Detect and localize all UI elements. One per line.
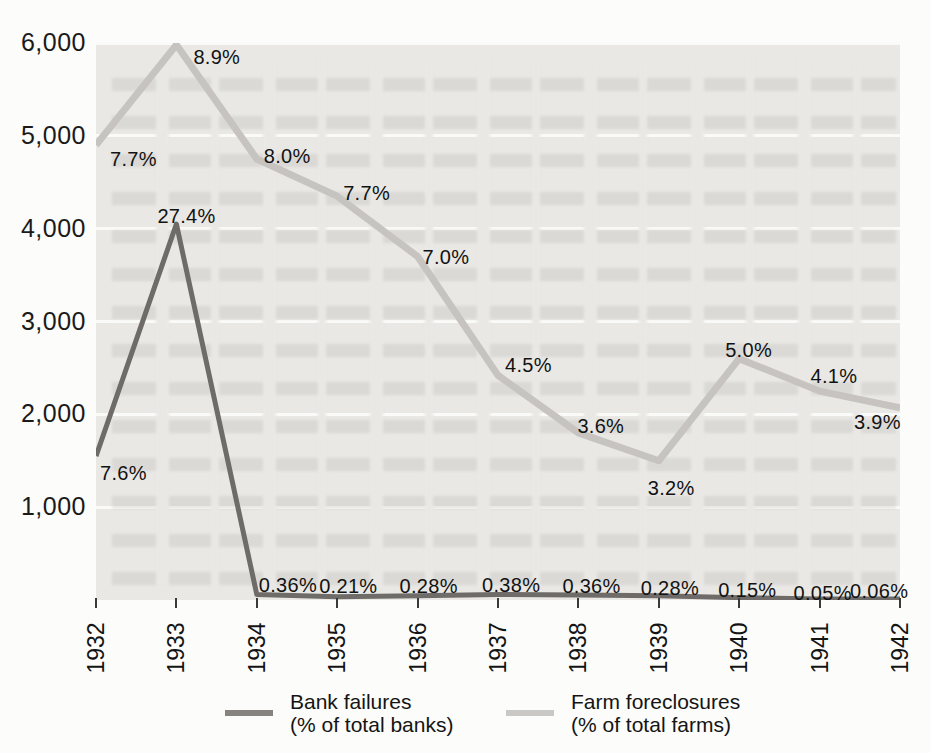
y-axis-label: 1,000 — [0, 492, 86, 521]
x-axis-label: 1935 — [297, 603, 377, 693]
legend: Bank failures (% of total banks) Farm fo… — [0, 690, 931, 750]
x-axis-label: 1932 — [56, 603, 136, 693]
bank-failures-data-label: 0.15% — [718, 579, 776, 602]
legend-label-line2: (% of total banks) — [290, 713, 453, 736]
legend-label-line2: (% of total farms) — [571, 713, 740, 736]
y-axis-label: 2,000 — [0, 399, 86, 428]
legend-label-farm-foreclosures: Farm foreclosures (% of total farms) — [571, 690, 740, 736]
x-axis-label: 1941 — [780, 603, 860, 693]
line-plot — [96, 43, 900, 600]
x-axis-label: 1938 — [538, 603, 618, 693]
farm-foreclosures-data-label: 7.0% — [423, 246, 470, 269]
line-chart: 1,0002,0003,0004,0005,0006,000 193219331… — [0, 0, 931, 753]
bank-failures-data-label: 0.21% — [319, 575, 377, 598]
bank-failures-data-label: 0.06% — [850, 580, 908, 603]
bank-failures-data-label: 0.28% — [400, 575, 458, 598]
plot-area — [96, 43, 900, 600]
farm-foreclosures-data-label: 5.0% — [725, 339, 772, 362]
bank-failures-line — [96, 224, 900, 599]
farm-foreclosures-data-label: 3.6% — [577, 415, 624, 438]
farm-foreclosures-data-label: 4.5% — [505, 354, 552, 377]
y-axis-label: 5,000 — [0, 121, 86, 150]
farm-foreclosures-data-label: 7.7% — [110, 148, 157, 171]
legend-item-bank-failures: Bank failures (% of total banks) — [225, 690, 453, 736]
bank-failures-data-label: 0.28% — [641, 577, 699, 600]
farm-foreclosures-data-label: 7.7% — [343, 182, 390, 205]
bank-failures-swatch — [225, 710, 273, 716]
bank-failures-data-label: 27.4% — [157, 205, 215, 228]
farm-foreclosures-data-label: 3.9% — [854, 411, 901, 434]
x-axis-label: 1937 — [458, 603, 538, 693]
legend-label-line1: Bank failures — [290, 690, 453, 713]
farm-foreclosures-data-label: 8.9% — [193, 46, 240, 69]
y-axis-label: 4,000 — [0, 214, 86, 243]
bank-failures-data-label: 0.38% — [482, 574, 540, 597]
x-axis-label: 1936 — [378, 603, 458, 693]
farm-foreclosures-data-label: 8.0% — [264, 145, 311, 168]
x-axis-label: 1942 — [860, 603, 931, 693]
farm-foreclosures-swatch — [506, 710, 554, 716]
x-axis-label: 1940 — [699, 603, 779, 693]
bank-failures-data-label: 0.05% — [794, 582, 852, 605]
legend-label-line1: Farm foreclosures — [571, 690, 740, 713]
legend-label-bank-failures: Bank failures (% of total banks) — [290, 690, 453, 736]
x-axis-label: 1934 — [217, 603, 297, 693]
farm-foreclosures-data-label: 3.2% — [648, 477, 695, 500]
legend-item-farm-foreclosures: Farm foreclosures (% of total farms) — [506, 690, 740, 736]
farm-foreclosures-data-label: 4.1% — [811, 365, 858, 388]
y-axis-label: 6,000 — [0, 28, 86, 57]
x-axis-label: 1933 — [136, 603, 216, 693]
x-axis-label: 1939 — [619, 603, 699, 693]
bank-failures-data-label: 0.36% — [259, 574, 317, 597]
y-axis-label: 3,000 — [0, 307, 86, 336]
bank-failures-data-label: 7.6% — [100, 462, 147, 485]
bank-failures-data-label: 0.36% — [562, 575, 620, 598]
